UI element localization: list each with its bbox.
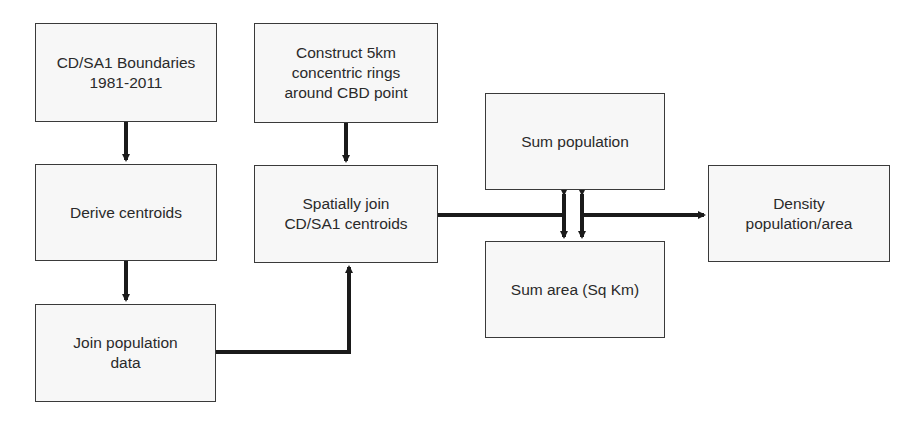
node-label: CD/SA1 Boundaries 1981-2011 <box>57 53 196 93</box>
node-sum-area: Sum area (Sq Km) <box>485 241 665 338</box>
flowchart-canvas: CD/SA1 Boundaries 1981-2011 Construct 5k… <box>0 0 916 430</box>
node-derive-centroids: Derive centroids <box>35 164 217 261</box>
node-label: Sum area (Sq Km) <box>511 280 639 300</box>
arrow-join-pop-to-spatial-join <box>216 267 349 352</box>
node-density: Density population/area <box>708 165 890 262</box>
node-label: Sum population <box>521 132 629 152</box>
node-label: Density population/area <box>746 194 853 234</box>
node-label: Derive centroids <box>70 203 182 223</box>
node-sum-population: Sum population <box>485 93 665 190</box>
node-label: Join population data <box>73 333 177 373</box>
node-construct-rings: Construct 5km concentric rings around CB… <box>254 23 438 123</box>
node-spatially-join: Spatially join CD/SA1 centroids <box>254 165 438 263</box>
node-cd-sa1-boundaries: CD/SA1 Boundaries 1981-2011 <box>35 23 217 122</box>
node-label: Spatially join CD/SA1 centroids <box>284 194 407 234</box>
node-join-population-data: Join population data <box>35 304 216 402</box>
node-label: Construct 5km concentric rings around CB… <box>284 43 407 103</box>
